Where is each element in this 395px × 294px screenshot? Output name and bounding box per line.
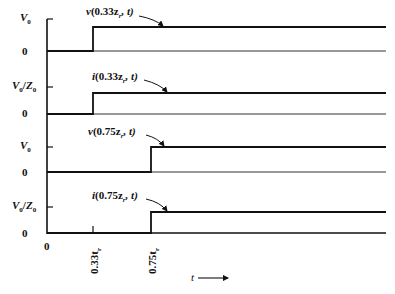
timing-diagram-canvas <box>0 0 395 294</box>
x-label-0: 0 <box>44 240 50 252</box>
y-label-0-panel1: 0 <box>22 45 28 57</box>
y-label-v0z0-panel2: V0/Z0 <box>12 79 36 94</box>
y-label-0-panel2: 0 <box>22 107 28 119</box>
step-waveform <box>47 93 386 114</box>
signal-label-i075: i(0.75zr, t) <box>92 189 138 204</box>
panel-v075 <box>47 135 386 172</box>
step-waveform <box>47 212 386 233</box>
signal-label-v033: v(0.33zr, t) <box>86 5 134 20</box>
step-waveform <box>47 27 386 51</box>
x-axis-time-label: t <box>191 271 194 283</box>
y-label-0-panel3: 0 <box>22 166 28 178</box>
y-label-v0-panel1: V0 <box>20 11 31 26</box>
y-label-v0-panel3: V0 <box>20 139 31 154</box>
step-waveform <box>47 147 386 172</box>
signal-label-i033: i(0.33zr, t) <box>92 70 138 85</box>
y-label-0-panel4: 0 <box>22 227 28 239</box>
x-label-033: 0.33tr <box>88 248 103 274</box>
callout-arrow <box>146 135 164 146</box>
signal-label-v075: v(0.75zr, t) <box>88 125 136 140</box>
y-label-v0z0-panel4: V0/Z0 <box>12 199 36 214</box>
callout-arrow <box>146 199 167 211</box>
x-label-075: 0.75tr <box>146 248 161 274</box>
panel-v033 <box>47 16 386 51</box>
callout-arrow <box>144 80 167 92</box>
callout-arrow <box>139 16 163 26</box>
